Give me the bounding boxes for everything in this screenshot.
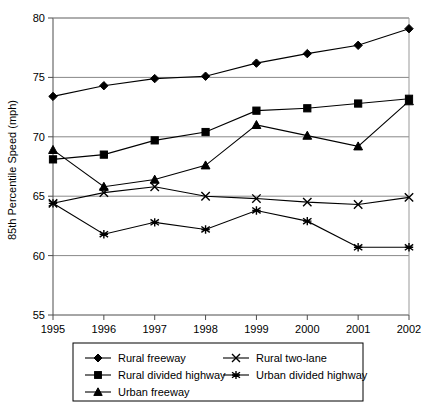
marker-diamond — [151, 74, 159, 82]
marker-diamond — [49, 92, 57, 100]
y-tick-label: 80 — [33, 12, 45, 24]
marker-square — [304, 105, 311, 112]
chart-container: 556065707580 199519961997199819992000200… — [0, 0, 426, 409]
marker-triangle — [201, 161, 210, 169]
marker-square — [355, 100, 362, 107]
marker-square — [100, 151, 107, 158]
legend-label: Rural freeway — [118, 352, 186, 364]
y-axis-title: 85th Percentile Speed (mph) — [6, 100, 18, 240]
x-tick-label: 2001 — [346, 323, 370, 335]
marker-diamond — [405, 24, 413, 32]
x-tick-label: 1996 — [92, 323, 116, 335]
marker-asterisk — [151, 218, 159, 226]
marker-diamond — [354, 41, 362, 49]
y-tick-label: 65 — [33, 190, 45, 202]
marker-asterisk — [252, 206, 260, 214]
x-tick-label: 1997 — [142, 323, 166, 335]
x-tick-label: 1995 — [41, 323, 65, 335]
legend-label: Urban divided highway — [256, 369, 368, 381]
marker-diamond — [252, 59, 260, 67]
y-tick-label: 70 — [33, 131, 45, 143]
marker-asterisk — [303, 217, 311, 225]
y-tick-label: 60 — [33, 250, 45, 262]
x-tick-label: 2002 — [397, 323, 421, 335]
marker-triangle — [49, 145, 58, 153]
marker-asterisk — [232, 371, 240, 379]
data-series — [49, 24, 414, 251]
series-urban-freeway — [49, 97, 414, 191]
y-tick-label: 75 — [33, 71, 45, 83]
plot-frame — [53, 18, 409, 315]
marker-asterisk — [100, 230, 108, 238]
marker-square — [95, 372, 102, 379]
marker-asterisk — [201, 225, 209, 233]
marker-triangle — [252, 121, 261, 129]
marker-diamond — [201, 72, 209, 80]
marker-square — [49, 156, 56, 163]
marker-diamond — [303, 49, 311, 57]
x-tick-label: 1999 — [244, 323, 268, 335]
x-axis-ticks: 19951996199719981999200020012002 — [41, 315, 421, 335]
chart-legend: Rural freewayRural two-laneRural divided… — [73, 343, 368, 401]
marker-diamond — [100, 82, 108, 90]
legend-label: Rural divided highway — [118, 369, 226, 381]
marker-square — [151, 137, 158, 144]
legend-label: Rural two-lane — [256, 352, 327, 364]
y-tick-label: 55 — [33, 309, 45, 321]
series-urban-divided-highway — [49, 199, 413, 251]
marker-asterisk — [354, 243, 362, 251]
marker-square — [253, 107, 260, 114]
series-rural-divided-highway — [49, 95, 412, 163]
series-rural-freeway — [49, 24, 413, 100]
legend-label: Urban freeway — [118, 386, 190, 398]
marker-asterisk — [405, 243, 413, 251]
marker-square — [202, 128, 209, 135]
y-axis-ticks: 556065707580 — [33, 12, 53, 321]
line-chart: 556065707580 199519961997199819992000200… — [0, 0, 426, 409]
x-tick-label: 2000 — [295, 323, 319, 335]
x-tick-label: 1998 — [193, 323, 217, 335]
